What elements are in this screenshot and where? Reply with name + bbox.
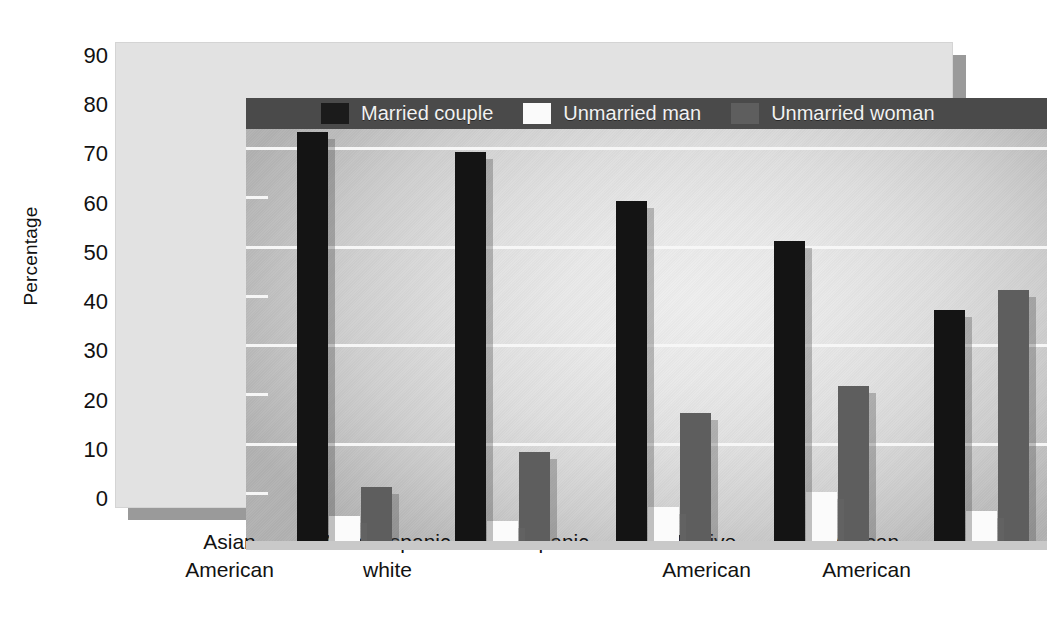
legend-item-woman[interactable]: Unmarried woman xyxy=(731,102,934,125)
legend-label: Married couple xyxy=(361,102,493,125)
legend-label: Unmarried woman xyxy=(771,102,934,125)
bar-unmarried-woman-4 xyxy=(998,290,1029,541)
legend-swatch-icon-man xyxy=(523,103,551,124)
y-tick-20: 20 xyxy=(52,390,108,412)
bar-married-4 xyxy=(934,310,965,541)
legend-item-married[interactable]: Married couple xyxy=(321,102,493,125)
bar-married-3 xyxy=(774,241,805,541)
y-tick-40: 40 xyxy=(52,291,108,313)
category-label-line: American xyxy=(140,556,320,584)
y-tick-10: 10 xyxy=(52,439,108,461)
legend-swatch-icon-woman xyxy=(731,103,759,124)
plot-area: Married coupleUnmarried manUnmarried wom… xyxy=(246,98,1047,550)
legend-swatch-icon-married xyxy=(321,103,349,124)
chart-legend: Married coupleUnmarried manUnmarried wom… xyxy=(246,98,1047,129)
legend-item-man[interactable]: Unmarried man xyxy=(523,102,701,125)
category-label-line: American xyxy=(777,556,957,584)
bar-married-1 xyxy=(455,152,486,541)
y-axis-tick-labels: 0102030405060708090 xyxy=(50,0,108,627)
y-tick-50: 50 xyxy=(52,242,108,264)
y-tick-80: 80 xyxy=(52,94,108,116)
bar-series-container xyxy=(246,98,1047,550)
legend-label: Unmarried man xyxy=(563,102,701,125)
bar-married-2 xyxy=(616,201,647,541)
category-label-line: white xyxy=(298,556,478,584)
y-tick-70: 70 xyxy=(52,143,108,165)
chart-frame: Married coupleUnmarried manUnmarried wom… xyxy=(115,42,953,508)
y-tick-0: 0 xyxy=(52,488,108,510)
bar-married-0 xyxy=(297,132,328,541)
y-tick-90: 90 xyxy=(52,45,108,67)
y-tick-60: 60 xyxy=(52,193,108,215)
y-axis-title: Percentage xyxy=(20,191,42,321)
baseline-plinth xyxy=(246,541,1047,550)
category-label-line: American xyxy=(617,556,797,584)
y-tick-30: 30 xyxy=(52,340,108,362)
